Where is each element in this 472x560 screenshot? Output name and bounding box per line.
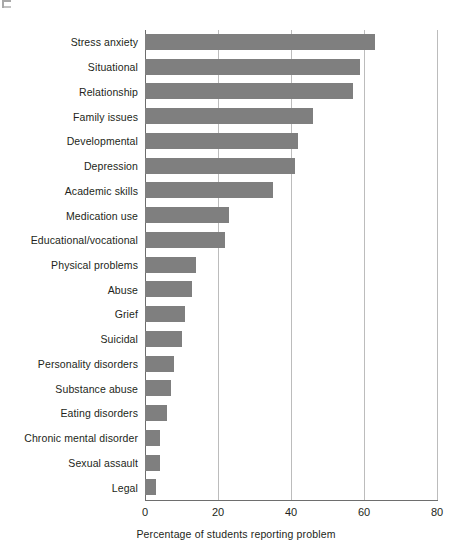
gridline-80 <box>437 30 438 500</box>
bar-row <box>145 352 437 377</box>
bar <box>145 108 313 124</box>
bar <box>145 182 273 198</box>
bar-row <box>145 426 437 451</box>
bar-row <box>145 302 437 327</box>
bar-row <box>145 401 437 426</box>
category-label: Physical problems <box>0 259 138 271</box>
category-label: Grief <box>0 308 138 320</box>
category-label: Legal <box>0 482 138 494</box>
bar <box>145 158 295 174</box>
bar <box>145 133 298 149</box>
bar-row <box>145 203 437 228</box>
bar-row <box>145 376 437 401</box>
category-label: Substance abuse <box>0 383 138 395</box>
bar <box>145 455 160 471</box>
category-label: Personality disorders <box>0 358 138 370</box>
bar-row <box>145 30 437 55</box>
bar <box>145 59 360 75</box>
category-label: Sexual assault <box>0 457 138 469</box>
bar <box>145 83 353 99</box>
category-label: Depression <box>0 160 138 172</box>
x-axis-title: Percentage of students reporting problem <box>0 528 472 540</box>
bar <box>145 405 167 421</box>
category-label: Stress anxiety <box>0 36 138 48</box>
x-tick-label-20: 20 <box>198 506 238 518</box>
plot-area <box>145 30 437 500</box>
bar <box>145 430 160 446</box>
category-label: Suicidal <box>0 333 138 345</box>
category-label: Medication use <box>0 210 138 222</box>
bar <box>145 356 174 372</box>
bar <box>145 232 225 248</box>
bar-row <box>145 79 437 104</box>
bar <box>145 306 185 322</box>
bar <box>145 207 229 223</box>
bar-row <box>145 129 437 154</box>
category-label: Developmental <box>0 135 138 147</box>
bar <box>145 257 196 273</box>
bar <box>145 281 192 297</box>
bar-row <box>145 178 437 203</box>
bar-row <box>145 55 437 80</box>
bar-row <box>145 277 437 302</box>
category-label: Educational/vocational <box>0 234 138 246</box>
category-label: Family issues <box>0 111 138 123</box>
bar-row <box>145 154 437 179</box>
x-axis-line <box>145 500 438 501</box>
category-label: Chronic mental disorder <box>0 432 138 444</box>
x-tick-label-40: 40 <box>271 506 311 518</box>
x-tick-label-80: 80 <box>417 506 457 518</box>
bar-row <box>145 327 437 352</box>
bar-row <box>145 104 437 129</box>
bar-row <box>145 228 437 253</box>
category-label: Academic skills <box>0 185 138 197</box>
bar <box>145 34 375 50</box>
horizontal-bar-chart: Stress anxietySituationalRelationshipFam… <box>0 0 472 560</box>
bar <box>145 331 182 347</box>
bar <box>145 380 171 396</box>
category-label: Abuse <box>0 284 138 296</box>
bar-row <box>145 253 437 278</box>
x-tick-label-0: 0 <box>125 506 165 518</box>
category-label: Relationship <box>0 86 138 98</box>
bar <box>145 479 156 495</box>
category-label: Situational <box>0 61 138 73</box>
bar-row <box>145 475 437 500</box>
bar-row <box>145 451 437 476</box>
category-label: Eating disorders <box>0 407 138 419</box>
x-tick-label-60: 60 <box>344 506 384 518</box>
